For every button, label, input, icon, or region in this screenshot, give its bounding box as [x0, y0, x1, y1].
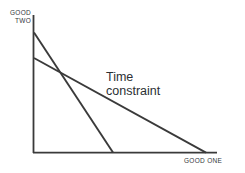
diagram-canvas: GOOD TWO GOOD ONE Time constraint	[0, 0, 245, 173]
time-constraint-annotation: Time constraint	[106, 70, 160, 98]
y-axis-label-line1: GOOD	[10, 9, 31, 16]
production-possibility-frontier-line	[34, 33, 113, 153]
y-axis-label: GOOD TWO	[6, 9, 31, 24]
x-axis-label: GOOD ONE	[184, 157, 222, 165]
annotation-line2: constraint	[106, 84, 160, 98]
annotation-line1: Time	[106, 70, 133, 84]
y-axis-label-line2: TWO	[15, 17, 31, 24]
